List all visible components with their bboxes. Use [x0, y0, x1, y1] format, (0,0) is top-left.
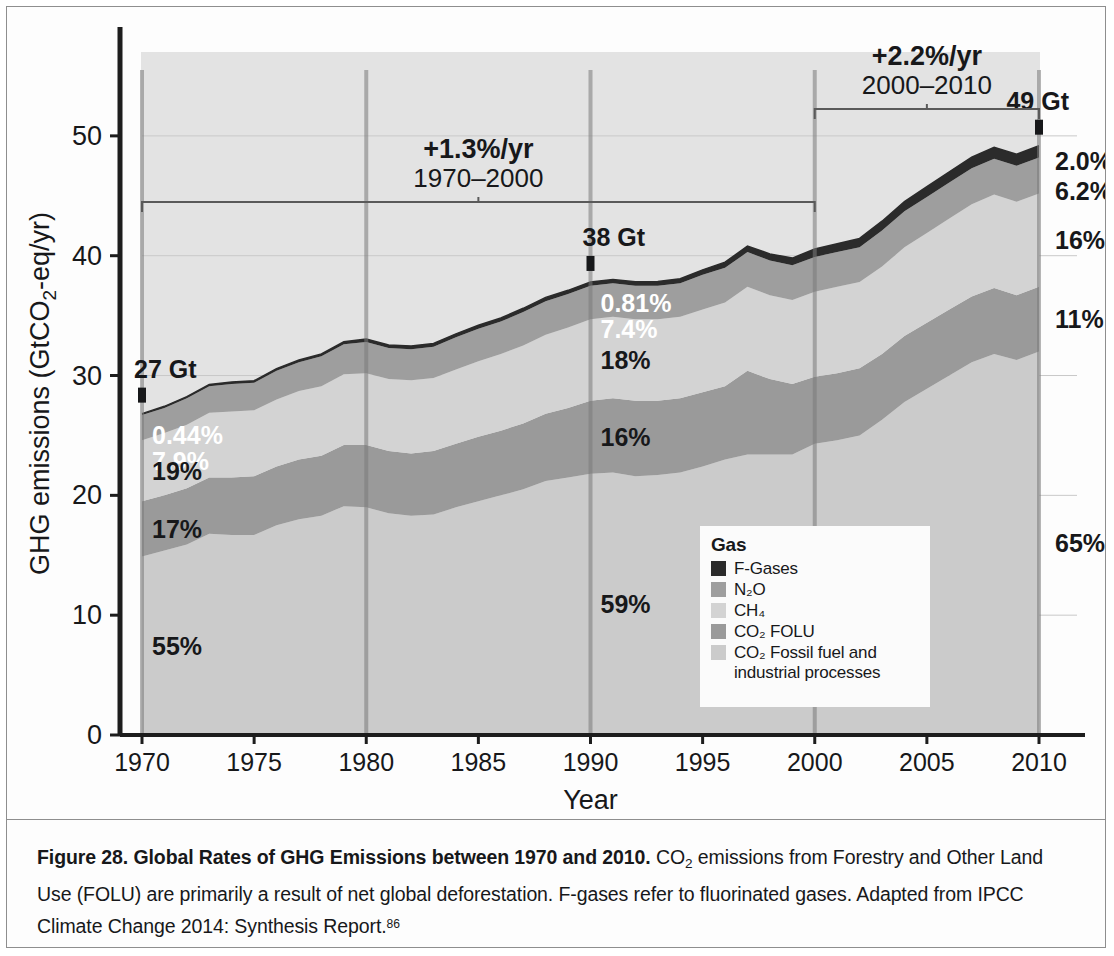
y-tick-label: 30 [72, 361, 102, 391]
x-tick-label: 1995 [675, 748, 731, 776]
share-annotation: 65% [1055, 529, 1105, 557]
growth-period-label: 1970–2000 [413, 163, 543, 193]
legend-swatch-icon [711, 603, 726, 618]
legend-item: CO₂ Fossil fuel and industrial processes [711, 643, 920, 683]
x-tick-label: 2000 [787, 748, 843, 776]
chart-legend: Gas F-GasesN₂OCH₄CO₂ FOLUCO₂ Fossil fuel… [700, 526, 930, 707]
share-annotation: 0.44% [152, 421, 223, 449]
share-annotation: 16% [1055, 226, 1105, 254]
legend-swatch-icon [711, 645, 726, 660]
x-tick-label: 1985 [451, 748, 507, 776]
x-axis-title: Year [563, 785, 618, 815]
legend-item: N₂O [711, 580, 920, 600]
share-annotation: 55% [152, 632, 202, 660]
legend-item: CO₂ FOLU [711, 622, 920, 642]
share-annotation: 0.81% [601, 289, 672, 317]
x-tick-label: 2010 [1011, 748, 1067, 776]
legend-item: F-Gases [711, 559, 920, 579]
legend-item-label: CO₂ FOLU [734, 622, 815, 642]
x-tick-label: 1975 [226, 748, 282, 776]
y-tick-label: 50 [72, 121, 102, 151]
legend-item-label: F-Gases [734, 559, 798, 579]
share-annotation: 18% [601, 346, 651, 374]
total-marker-tick [1035, 120, 1043, 135]
y-tick-label: 10 [72, 600, 102, 630]
x-tick-label: 1990 [563, 748, 619, 776]
legend-swatch-icon [711, 561, 726, 576]
legend-swatch-icon [711, 582, 726, 597]
legend-item-label: CH₄ [734, 601, 765, 621]
svg-text:GHG emissions (GtCO2-eq/yr): GHG emissions (GtCO2-eq/yr) [25, 212, 60, 575]
share-annotation: 19% [152, 457, 202, 485]
caption-number: Figure 28. [37, 846, 128, 868]
growth-rate-label: +2.2%/yr [872, 41, 983, 71]
y-axis-title: GHG emissions (GtCO2-eq/yr) [25, 212, 60, 575]
legend-item-label: N₂O [734, 580, 766, 600]
y-tick-label: 0 [87, 720, 102, 750]
share-annotation: 11% [1055, 305, 1104, 333]
share-annotation: 7.4% [601, 315, 658, 343]
share-annotation: 2.0% [1055, 147, 1105, 175]
growth-period-label: 2000–2010 [862, 70, 992, 100]
y-tick-label: 20 [72, 480, 102, 510]
caption-body-co2: CO [656, 846, 685, 868]
total-annotation: 38 Gt [583, 223, 646, 251]
legend-swatch-icon [711, 624, 726, 639]
growth-rate-label: +1.3%/yr [423, 134, 534, 164]
share-annotation: 6.2% [1055, 177, 1105, 205]
share-annotation: 16% [601, 423, 651, 451]
figure-frame: 0102030405019701975198019851990199520002… [6, 6, 1106, 948]
share-annotation: 17% [152, 515, 202, 543]
total-marker-tick [138, 388, 146, 403]
chart-area: 0102030405019701975198019851990199520002… [7, 7, 1105, 815]
caption-subscript: 2 [685, 856, 693, 871]
share-annotation: 59% [601, 590, 651, 618]
x-tick-label: 1970 [114, 748, 170, 776]
legend-items: F-GasesN₂OCH₄CO₂ FOLUCO₂ Fossil fuel and… [711, 559, 920, 683]
stacked-area-chart: 0102030405019701975198019851990199520002… [7, 7, 1105, 815]
legend-item: CH₄ [711, 601, 920, 621]
x-tick-label: 2005 [899, 748, 955, 776]
total-marker-tick [587, 256, 595, 271]
caption-footnote-marker: 86 [387, 917, 400, 931]
legend-item-label: CO₂ Fossil fuel and industrial processes [734, 643, 912, 683]
x-tick-label: 1980 [338, 748, 394, 776]
y-tick-label: 40 [72, 241, 102, 271]
caption-title: Global Rates of GHG Emissions between 19… [133, 846, 650, 868]
total-annotation: 27 Gt [134, 355, 197, 383]
figure-caption-block: Figure 28. Global Rates of GHG Emissions… [7, 819, 1105, 947]
legend-title: Gas [711, 534, 920, 556]
figure-caption-text: Figure 28. Global Rates of GHG Emissions… [37, 842, 1075, 942]
